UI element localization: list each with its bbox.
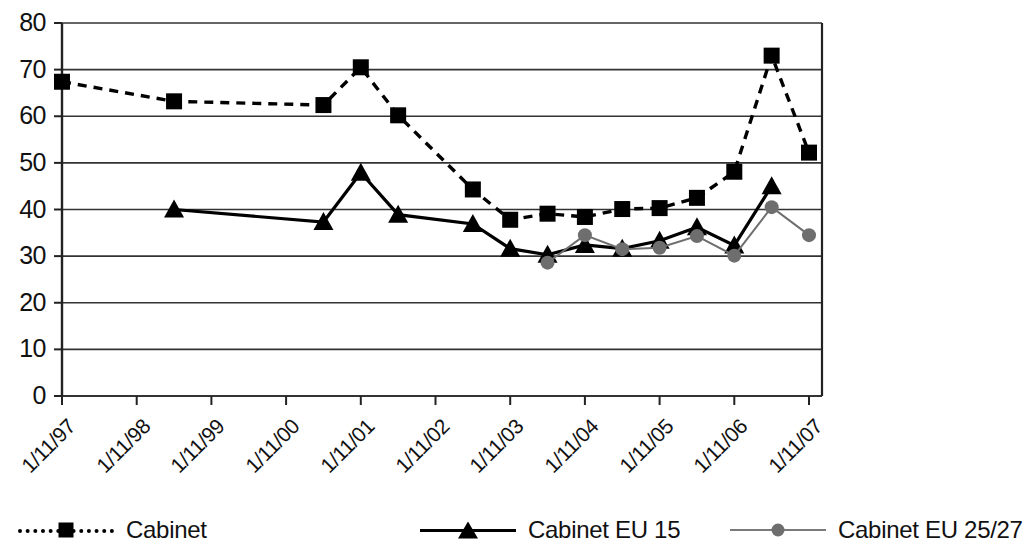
data-point-marker [578,228,592,242]
data-point-marker [765,200,779,214]
data-point-marker [690,229,704,243]
data-point-marker [315,97,331,113]
legend-square-marker-icon [59,523,74,538]
data-point-marker [615,242,629,256]
plot-area [0,0,879,420]
data-point-marker [727,249,741,263]
data-point-marker [500,239,520,257]
dashed-square-key [18,518,114,542]
data-point-marker [652,200,668,216]
data-point-marker [801,145,817,161]
data-point-marker [351,163,371,181]
data-point-marker [540,206,556,222]
data-point-marker [502,212,518,228]
legend-label: Cabinet EU 25/27 [838,518,1023,542]
series-layer [54,48,817,270]
data-point-marker [577,209,593,225]
thin-circle-key [730,518,826,542]
data-point-marker [541,256,555,270]
data-point-marker [614,201,630,217]
legend-entry[interactable]: Cabinet [18,515,207,545]
data-point-marker [764,48,780,64]
legend-entry[interactable]: Cabinet EU 25/27 [730,515,1023,545]
data-point-marker [166,93,182,109]
data-point-marker [762,176,782,194]
legend-label: Cabinet EU 15 [528,518,680,542]
data-point-marker [802,228,816,242]
data-point-marker [54,74,70,90]
data-point-marker [353,59,369,75]
series-cabinet-eu-15 [164,163,782,263]
legend-triangle-marker-icon [458,522,478,539]
legend-entry[interactable]: Cabinet EU 15 [420,515,680,545]
legend-label: Cabinet [126,518,207,542]
data-point-marker [689,190,705,206]
chart-legend: CabinetCabinet EU 15Cabinet EU 25/27 [0,515,879,549]
data-point-marker [465,181,481,197]
solid-triangle-key [420,518,516,542]
series-cabinet [54,48,817,228]
legend-circle-marker-icon [772,524,785,537]
data-point-marker [653,241,667,255]
data-point-marker [390,107,406,123]
data-point-marker [726,164,742,180]
